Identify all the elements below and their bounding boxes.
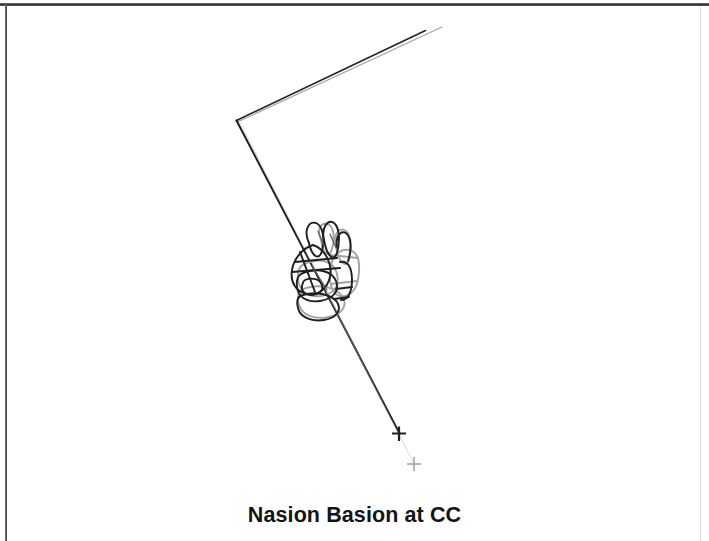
reference-line-upper-gray — [239, 27, 443, 122]
vertebra-outline-dark-group — [292, 222, 352, 320]
figure-page: Nasion Basion at CC — [0, 0, 709, 541]
cross-marker-gray — [407, 457, 421, 471]
superimposed-vertebrae-tracings — [292, 222, 360, 320]
cephalometric-tracing-canvas — [0, 0, 709, 541]
reference-line-lower-gray — [240, 122, 414, 463]
cross-marker-dark — [392, 427, 406, 442]
reference-line-upper-dark — [237, 31, 426, 121]
figure-caption: Nasion Basion at CC — [0, 503, 709, 528]
